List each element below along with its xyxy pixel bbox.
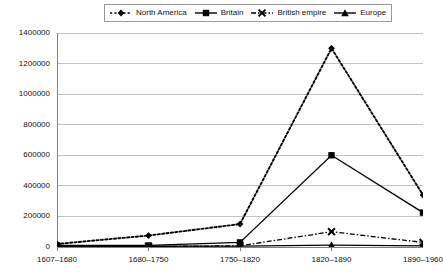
data-point-marker bbox=[145, 232, 152, 239]
x-tick-label: 1890–1960 bbox=[403, 256, 443, 264]
legend-swatch-diamond-icon bbox=[110, 8, 132, 18]
legend-swatch-triangle-icon bbox=[334, 8, 356, 18]
x-tick-label: 1680–1750 bbox=[128, 256, 168, 264]
legend-label: Europe bbox=[360, 8, 386, 18]
x-axis-labels: 1607–16801680–17501750–18201820–18901890… bbox=[57, 256, 423, 268]
series-line bbox=[57, 48, 423, 244]
legend-item[interactable]: North America bbox=[110, 8, 187, 18]
legend-swatch-square-icon bbox=[195, 8, 217, 18]
data-point-marker bbox=[202, 10, 208, 16]
chart-legend: North AmericaBritainBritish empireEurope bbox=[104, 4, 392, 22]
y-tick-label: 1200000 bbox=[19, 60, 50, 68]
legend-swatch-x-icon bbox=[251, 8, 273, 18]
legend-label: Britain bbox=[221, 8, 244, 18]
y-tick-label: 200000 bbox=[23, 212, 50, 220]
legend-item[interactable]: British empire bbox=[251, 8, 326, 18]
legend-item[interactable]: Europe bbox=[334, 8, 386, 18]
data-point-marker bbox=[328, 152, 334, 158]
y-tick-label: 800000 bbox=[23, 121, 50, 129]
legend-label: British empire bbox=[277, 8, 326, 18]
data-point-marker bbox=[118, 10, 125, 17]
x-tick-label: 1820–1890 bbox=[311, 256, 351, 264]
x-tick-label: 1607–1680 bbox=[37, 256, 77, 264]
data-point-marker bbox=[237, 221, 244, 228]
legend-item[interactable]: Britain bbox=[195, 8, 244, 18]
y-tick-label: 1400000 bbox=[19, 29, 50, 37]
series-line bbox=[57, 155, 423, 245]
series-layer bbox=[57, 33, 423, 247]
y-tick-label: 600000 bbox=[23, 151, 50, 159]
x-tick-label: 1750–1820 bbox=[220, 256, 260, 264]
data-point-marker bbox=[420, 209, 423, 215]
legend-label: North America bbox=[136, 8, 187, 18]
y-axis-labels: 0200000400000600000800000100000012000001… bbox=[0, 33, 50, 247]
y-tick-label: 400000 bbox=[23, 182, 50, 190]
data-point-marker bbox=[328, 241, 336, 247]
plot-area bbox=[57, 33, 423, 247]
y-tick-label: 1000000 bbox=[19, 90, 50, 98]
y-tick-label: 0 bbox=[46, 243, 50, 251]
